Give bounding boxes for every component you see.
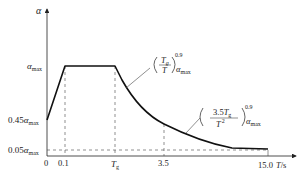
x-tick-15: 15.0 <box>258 160 273 170</box>
leader-f1 <box>126 68 150 88</box>
x-tick-tg: Tg <box>111 159 119 170</box>
y-tick-amax: αmax <box>27 61 42 72</box>
x-tick-0: 0 <box>44 158 48 168</box>
y-axis-label: α <box>36 5 42 16</box>
f2-exp: 0.9 <box>245 104 253 110</box>
f1-exp: 0.9 <box>175 52 183 58</box>
f1-den: T <box>162 65 168 75</box>
f2-tail: αmax <box>246 116 261 127</box>
formula-descending-1: Tg T 0.9 αmax <box>154 52 191 75</box>
formula-descending-2: 3.5Tg T2 0.9 αmax <box>200 104 261 129</box>
y-tick-0.45amax: 0.45αmax <box>8 115 39 126</box>
f1-tail: αmax <box>176 64 191 75</box>
x-tick-0.1: 0.1 <box>58 158 69 168</box>
x-axis-label: T/s <box>276 160 286 170</box>
response-spectrum-chart: α T/s αmax 0.45αmax 0.05αmax 0 0.1 Tg 3.… <box>0 0 302 180</box>
f2-den: T2 <box>216 118 225 129</box>
x-tick-3.5: 3.5 <box>158 158 169 168</box>
y-tick-0.05amax: 0.05αmax <box>8 145 39 156</box>
spectrum-curve <box>47 66 268 149</box>
f2-num: 3.5Tg <box>213 107 231 118</box>
leader-f2 <box>186 118 200 133</box>
